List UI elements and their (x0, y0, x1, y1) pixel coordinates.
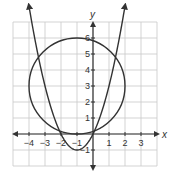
y-tick-label: 1 (85, 113, 90, 123)
x-tick-label: −3 (40, 138, 50, 148)
y-tick-label: 5 (85, 49, 90, 59)
tick-labels: −4−3−2−1123−1123456 (24, 33, 144, 155)
x-axis-label: x (161, 129, 168, 140)
x-tick-label: 3 (138, 138, 143, 148)
x-tick-label: 1 (106, 138, 111, 148)
y-tick-label: 3 (85, 81, 90, 91)
y-tick-label: 2 (85, 97, 90, 107)
y-axis-label: y (89, 9, 96, 20)
x-tick-label: −4 (24, 138, 34, 148)
y-tick-label: 6 (85, 33, 90, 43)
x-tick-label: 2 (122, 138, 127, 148)
y-tick-label: 4 (85, 65, 90, 75)
coordinate-plane: −4−3−2−1123−1123456 x y (0, 0, 175, 175)
